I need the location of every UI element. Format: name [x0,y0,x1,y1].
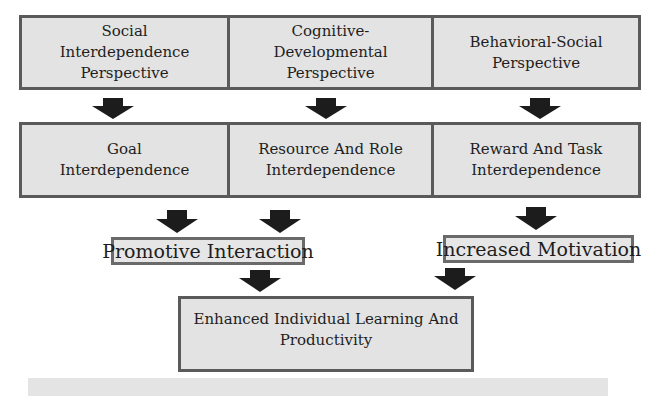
perspective-social-label: Social Interdependence Perspective [35,21,215,84]
promotive-interaction-label: Promotive Interaction [102,241,314,262]
reward-task-interdependence-label: Reward And Task Interdependence [461,139,611,181]
perspective-behavioral: Behavioral-Social Perspective [431,18,638,87]
interdependences-row: Goal Interdependence Resource And Role I… [19,122,641,198]
resource-role-interdependence-label: Resource And Role Interdependence [256,139,406,181]
outcome-box: Enhanced Individual Learning And Product… [178,296,474,372]
goal-interdependence: Goal Interdependence [22,125,227,195]
perspective-cognitive: Cognitive-Developmental Perspective [227,18,431,87]
perspective-cognitive-label: Cognitive-Developmental Perspective [236,21,425,84]
caption-bar [28,378,608,396]
perspective-behavioral-label: Behavioral-Social Perspective [461,32,611,74]
increased-motivation: Increased Motivation [443,235,634,263]
goal-interdependence-label: Goal Interdependence [60,139,190,181]
promotive-interaction: Promotive Interaction [111,237,305,265]
resource-role-interdependence: Resource And Role Interdependence [227,125,431,195]
perspective-social: Social Interdependence Perspective [22,18,227,87]
increased-motivation-label: Increased Motivation [436,239,641,260]
reward-task-interdependence: Reward And Task Interdependence [431,125,638,195]
perspectives-row: Social Interdependence Perspective Cogni… [19,15,641,90]
outcome-label: Enhanced Individual Learning And Product… [191,309,461,351]
